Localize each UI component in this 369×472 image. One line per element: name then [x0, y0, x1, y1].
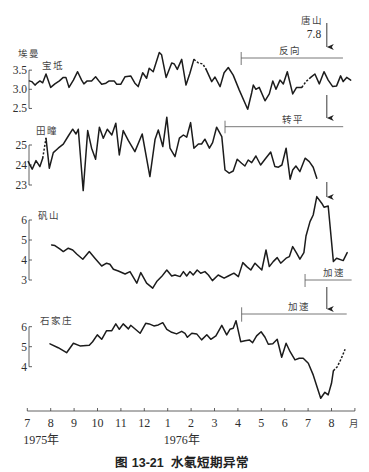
trend-bracket: 反向: [241, 45, 343, 65]
y-tick-label: 4: [21, 361, 27, 373]
x-axis: 78910111212345678月1975年1976年: [23, 408, 360, 447]
series-segment: [311, 72, 351, 87]
x-tick-label: 8: [48, 416, 54, 430]
series-segment: [46, 117, 317, 190]
y-tick-label: 3.5: [13, 64, 28, 76]
x-tick-label: 1: [165, 416, 171, 430]
event-location-label: 唐山: [301, 15, 323, 26]
series-segment: [52, 197, 348, 289]
x-tick-label: 9: [71, 416, 77, 430]
y-tick-label: 5: [21, 341, 27, 353]
y-tick-label: 4: [21, 254, 27, 266]
trend-label: 反向: [279, 45, 301, 56]
x-tick-label: 4: [235, 416, 241, 430]
y-tick-label: 5: [21, 234, 27, 246]
event-magnitude-label: 7.8: [307, 28, 322, 40]
x-tick-label: 12: [138, 416, 150, 430]
station-label: 田疃: [36, 125, 58, 136]
x-tick-label: 7: [305, 416, 311, 430]
series-segment: [206, 68, 302, 110]
earthquake-event-annotation: 唐山 7.8: [301, 15, 323, 40]
trend-label: 加速: [288, 301, 310, 312]
radon-anomaly-figure: 唐山 7.8 埃曼 宝坻 3.53.02.5 反向 田疃 252423 转平 矾…: [0, 0, 369, 472]
y-axis: 654: [21, 321, 32, 373]
station-label: 宝坻: [42, 60, 64, 71]
panel-shijiazhuang: 石家庄 654 加速: [21, 301, 346, 398]
panel-tiantuan: 田疃 252423 转平: [16, 114, 344, 191]
y-tick-label: 23: [16, 179, 28, 191]
panel-fanshan: 矾山 6543 加速: [21, 197, 351, 289]
x-tick-label: 11: [115, 416, 127, 430]
figure-caption: 图 13-21 水氡短期异常: [115, 455, 248, 470]
y-tick-label: 24: [16, 159, 28, 171]
series-line: [52, 197, 348, 289]
year-label: 1975年: [23, 433, 59, 447]
series-line: [28, 117, 317, 190]
trend-bracket: 加速: [305, 267, 352, 287]
y-axis: 6543: [21, 214, 32, 286]
y-axis: 3.53.02.5: [13, 64, 32, 114]
station-label: 石家庄: [40, 315, 73, 326]
year-label: 1976年: [164, 433, 200, 447]
series-segment: [28, 158, 43, 169]
series-segment-dashed: [333, 349, 345, 370]
x-unit-label: 月: [349, 418, 360, 429]
trend-bracket: 加速: [242, 301, 347, 322]
x-tick-label: 6: [282, 416, 288, 430]
y-tick-label: 6: [21, 214, 27, 226]
x-tick-label: 10: [92, 416, 104, 430]
series-line: [29, 53, 350, 110]
series-segment-dashed: [302, 77, 311, 87]
trend-label: 加速: [323, 267, 345, 278]
station-label: 矾山: [38, 210, 60, 221]
y-unit-label: 埃曼: [18, 48, 40, 59]
series-segment-dashed: [194, 59, 206, 69]
series-line: [50, 321, 345, 399]
series-segment: [50, 321, 333, 399]
y-tick-label: 2.5: [13, 102, 28, 114]
y-tick-label: 3: [21, 274, 27, 286]
trend-label: 转平: [282, 114, 304, 125]
x-tick-label: 8: [329, 416, 335, 430]
y-tick-label: 3.0: [13, 83, 28, 95]
y-tick-label: 25: [16, 139, 28, 151]
panel-baodi: 宝坻 3.53.02.5 反向: [13, 45, 351, 114]
x-tick-label: 5: [258, 416, 264, 430]
x-tick-label: 3: [212, 416, 218, 430]
x-tick-label: 7: [24, 416, 30, 430]
y-tick-label: 6: [21, 321, 27, 333]
x-tick-label: 2: [188, 416, 194, 430]
trend-bracket: 转平: [225, 114, 343, 133]
series-segment-dashed: [43, 138, 46, 158]
